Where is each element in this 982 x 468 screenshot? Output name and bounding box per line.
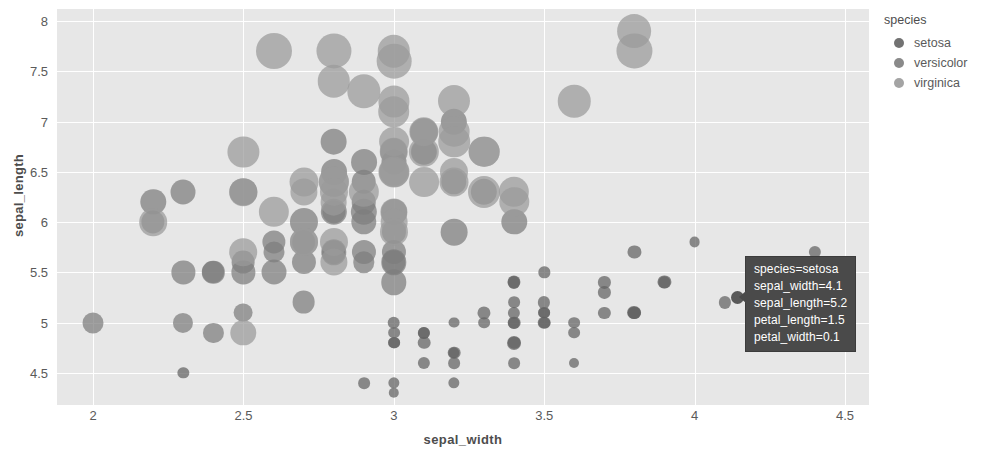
x-axis-title: sepal_width — [57, 432, 869, 447]
y-axis-tick-label: 4.5 — [0, 365, 48, 380]
data-point[interactable] — [230, 238, 258, 266]
data-point[interactable] — [317, 65, 349, 97]
legend-swatch-icon — [894, 78, 904, 88]
data-point[interactable] — [507, 336, 521, 350]
gridline-vertical — [243, 9, 244, 405]
tooltip-lines: species=setosasepal_width=4.1sepal_lengt… — [754, 261, 847, 346]
data-point[interactable] — [478, 317, 490, 329]
data-point[interactable] — [539, 267, 550, 278]
x-axis-tick-label: 4.5 — [836, 408, 854, 423]
data-point[interactable] — [320, 178, 348, 206]
data-point[interactable] — [347, 75, 380, 108]
data-point[interactable] — [440, 167, 469, 196]
data-point[interactable] — [231, 320, 256, 345]
data-point[interactable] — [290, 178, 317, 205]
data-point[interactable] — [598, 286, 610, 298]
data-point[interactable] — [719, 296, 731, 308]
data-point[interactable] — [256, 33, 292, 69]
data-point[interactable] — [290, 228, 318, 256]
tooltip-line: petal_length=1.5 — [754, 312, 847, 329]
data-point[interactable] — [598, 306, 610, 318]
x-axis-tick-label: 2.5 — [234, 408, 252, 423]
x-axis-tick-label: 3.5 — [535, 408, 553, 423]
data-point[interactable] — [441, 219, 468, 246]
legend-item-virginica[interactable]: virginica — [884, 73, 980, 93]
data-point[interactable] — [83, 312, 104, 333]
legend-item-versicolor[interactable]: versicolor — [884, 53, 980, 73]
tooltip-line: sepal_length=5.2 — [754, 295, 847, 312]
legend[interactable]: species setosaversicolorvirginica — [884, 13, 980, 93]
data-point[interactable] — [409, 167, 439, 197]
x-axis-tick-label: 4 — [691, 408, 698, 423]
legend-item-label: setosa — [914, 36, 951, 50]
y-axis-tick-label: 8 — [0, 14, 48, 29]
data-point[interactable] — [469, 136, 500, 167]
data-point[interactable] — [438, 126, 470, 158]
data-point[interactable] — [508, 357, 520, 369]
data-point[interactable] — [618, 14, 652, 48]
gridline-vertical — [544, 9, 545, 405]
legend-item-label: versicolor — [914, 56, 968, 70]
y-axis-tick-label: 5 — [0, 315, 48, 330]
tooltip-line: sepal_width=4.1 — [754, 278, 847, 295]
data-point[interactable] — [468, 176, 500, 208]
data-point[interactable] — [171, 179, 196, 204]
data-point[interactable] — [418, 357, 430, 369]
data-point[interactable] — [358, 377, 370, 389]
y-axis-tick-label: 5.5 — [0, 265, 48, 280]
scatter-plot-figure: 22.533.544.5 4.555.566.577.58 sepal_widt… — [0, 0, 982, 468]
data-point[interactable] — [202, 261, 224, 283]
data-point[interactable] — [388, 337, 400, 349]
data-point[interactable] — [230, 178, 258, 206]
tooltip-line: species=setosa — [754, 261, 847, 278]
data-point[interactable] — [203, 323, 223, 343]
y-axis-tick-label: 7 — [0, 114, 48, 129]
data-point[interactable] — [628, 246, 641, 259]
hover-tooltip: species=setosasepal_width=4.1sepal_lengt… — [746, 257, 855, 351]
legend-items[interactable]: setosaversicolorvirginica — [884, 33, 980, 93]
data-point[interactable] — [538, 296, 550, 308]
legend-item-setosa[interactable]: setosa — [884, 33, 980, 53]
y-axis-title: sepal_length — [11, 136, 26, 256]
data-point[interactable] — [448, 377, 459, 388]
data-point[interactable] — [499, 187, 528, 216]
data-point[interactable] — [261, 260, 286, 285]
data-point[interactable] — [172, 261, 195, 284]
x-axis-tick-label: 3 — [390, 408, 397, 423]
gridline-vertical — [93, 9, 94, 405]
data-point[interactable] — [380, 218, 408, 246]
tooltip-arrow-icon — [739, 291, 746, 303]
data-point[interactable] — [568, 327, 580, 339]
tooltip-line: petal_width=0.1 — [754, 329, 847, 346]
y-axis-tick-label: 7.5 — [0, 64, 48, 79]
data-point[interactable] — [389, 388, 399, 398]
data-point[interactable] — [388, 377, 399, 388]
data-point[interactable] — [228, 136, 259, 167]
data-point[interactable] — [689, 237, 700, 248]
legend-swatch-icon — [894, 58, 904, 68]
data-point[interactable] — [178, 367, 189, 378]
data-point[interactable] — [558, 85, 590, 117]
data-point[interactable] — [410, 118, 438, 146]
data-point[interactable] — [569, 358, 579, 368]
data-point[interactable] — [448, 357, 460, 369]
data-point[interactable] — [438, 85, 470, 117]
x-axis-tick-label: 2 — [89, 408, 96, 423]
data-point[interactable] — [316, 34, 351, 69]
data-point[interactable] — [378, 86, 409, 117]
data-point[interactable] — [320, 128, 347, 155]
data-point[interactable] — [292, 291, 315, 314]
legend-item-label: virginica — [914, 76, 960, 90]
gridline-vertical — [695, 9, 696, 405]
data-point[interactable] — [449, 317, 460, 328]
data-point[interactable] — [538, 316, 551, 329]
data-point[interactable] — [380, 158, 409, 187]
legend-swatch-icon — [894, 38, 904, 48]
data-point[interactable] — [352, 240, 376, 264]
gridline-horizontal — [57, 21, 869, 22]
gridline-horizontal — [57, 71, 869, 72]
data-point[interactable] — [628, 306, 641, 319]
data-point[interactable] — [139, 208, 167, 236]
data-point[interactable] — [388, 316, 401, 329]
data-point[interactable] — [173, 313, 193, 333]
